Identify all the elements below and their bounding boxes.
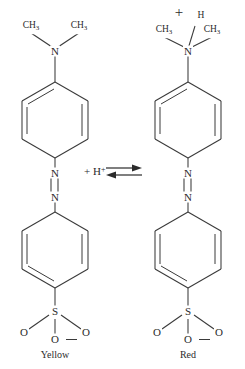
oxygen-left-label: O <box>152 327 162 338</box>
oxygen-left-label: O <box>19 327 29 338</box>
methyl-group-right: CH3 <box>70 20 89 34</box>
ring2-inner-3 <box>28 266 54 281</box>
ammonium-nitrogen-label: N <box>183 46 193 57</box>
ring1-edge-3 <box>22 139 55 158</box>
bond-s-oxygen-right <box>61 315 81 329</box>
ring1-edge-6 <box>188 82 221 101</box>
color-label-red: Red <box>180 349 196 360</box>
methyl-group-right: CH3 <box>203 24 222 38</box>
ring1-edge-3 <box>155 139 188 158</box>
azo-nitrogen-bottom-label: N <box>183 192 193 203</box>
oxygen-bottom-label: O <box>50 334 60 345</box>
ammonium-positive-charge-icon: + <box>175 5 183 20</box>
equilibrium-group: + H+ <box>84 158 140 188</box>
bond-s-oxygen-left <box>162 315 182 329</box>
sulfur-label: S <box>184 306 192 317</box>
ring1-inner-1 <box>28 89 54 104</box>
ring2-edge-1 <box>22 212 55 231</box>
ring2-edge-6 <box>55 212 88 231</box>
ring1-edge-6 <box>55 82 88 101</box>
ring2-edge-6 <box>188 212 221 231</box>
azo-nitrogen-bottom-label: N <box>50 192 60 203</box>
oxygen-right-label: O <box>81 327 91 338</box>
bond-s-oxygen-right <box>194 315 214 329</box>
ring2-edge-4 <box>55 269 88 288</box>
ring1-inner-1 <box>161 89 187 104</box>
color-label-yellow: Yellow <box>41 349 69 360</box>
reverse-arrow-head <box>106 172 116 179</box>
ring2-edge-1 <box>155 212 188 231</box>
oxygen-negative-charge-icon <box>199 339 210 340</box>
ring1-edge-4 <box>55 139 88 158</box>
sulfur-label: S <box>51 306 59 317</box>
azo-nitrogen-top-label: N <box>183 168 193 179</box>
amine-nitrogen-label: N <box>50 46 60 57</box>
oxygen-right-label: O <box>214 327 224 338</box>
ring1-edge-4 <box>188 139 221 158</box>
methyl-group-left: CH3 <box>22 20 41 34</box>
right-structure-red-form: + H CH3 CH3 N N N S O O O Red <box>133 0 243 369</box>
ring2-inner-3 <box>161 266 187 281</box>
bond-s-oxygen-left <box>29 315 49 329</box>
ring2-edge-4 <box>188 269 221 288</box>
ammonium-hydrogen-label: H <box>197 10 206 21</box>
proton-reagent-label: + H+ <box>84 164 105 177</box>
oxygen-bottom-label: O <box>183 334 193 345</box>
oxygen-negative-charge-icon <box>66 339 77 340</box>
methyl-group-left: CH3 <box>155 24 174 38</box>
reaction-diagram: CH3 CH3 N N N S O O O Yellow + H+ <box>0 0 245 369</box>
azo-nitrogen-top-label: N <box>50 168 60 179</box>
